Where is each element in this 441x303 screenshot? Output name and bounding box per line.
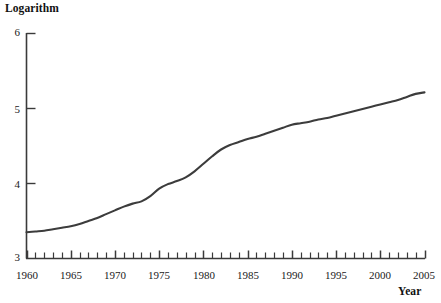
chart-figure: Logarithm Year 6 5 4 3 1960 1965 1970 19… xyxy=(0,0,441,303)
x-axis-ticks xyxy=(28,251,426,259)
y-axis-ticks xyxy=(27,34,36,184)
plot-area xyxy=(0,0,441,303)
axis-lines xyxy=(26,33,425,259)
footnote-text xyxy=(4,295,304,303)
data-series-line xyxy=(27,92,425,232)
